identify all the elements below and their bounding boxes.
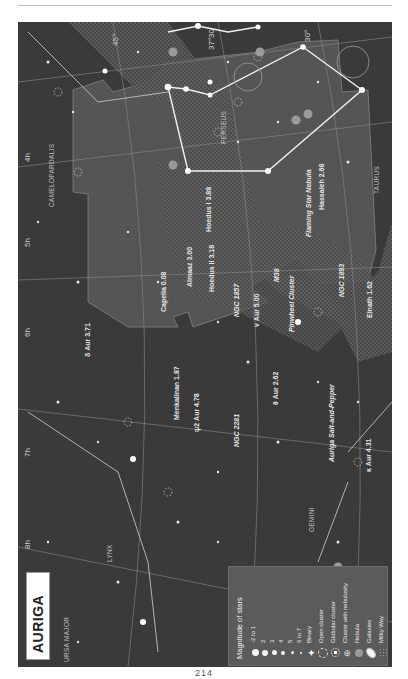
cluster-nebulosity-icon: ⊕ — [341, 647, 353, 659]
page-top-rule — [18, 5, 392, 6]
legend-item-galaxies: Galaxies — [365, 569, 377, 659]
dec-label-45: 45° — [111, 34, 120, 46]
legend-item-cluster-nebulosity: ⊕Cluster with nebulosity — [341, 569, 353, 659]
legend-item-globular-cluster: Globular cluster — [329, 569, 341, 659]
dso-label-ngc1893: NGC 1893 — [338, 264, 345, 297]
constellation-camelopardalis: CAMELOPARDALIS — [48, 144, 55, 207]
ra-label-8h: 8h — [23, 540, 32, 549]
star-label-delta-aur: δ Aur 3.71 — [84, 323, 91, 357]
legend-title: Magnitude of stars — [235, 597, 244, 659]
open-cluster-icon — [317, 647, 329, 659]
star-label-psi2-aur: ψ2 Aur 4.78 — [193, 393, 200, 432]
dso-label-m38: M38 — [273, 268, 280, 282]
constellation-gemini: GEMINI — [308, 507, 315, 532]
page-number: 214 — [0, 668, 408, 678]
galaxy-icon — [365, 647, 377, 659]
dec-label-30: 30° — [303, 30, 312, 42]
star-label-hoedus-i: Hoedus I 3.88 — [205, 187, 212, 232]
chart-title: AURIGA — [30, 595, 46, 653]
chart-title-badge: AURIGA — [26, 572, 50, 660]
binary-star-icon: ✦ — [305, 647, 317, 659]
star-label-kappa-aur: κ Aur 4.31 — [365, 439, 372, 472]
legend-item-milky-way: Milky Way — [377, 569, 389, 659]
dso-label-ngc1857: NGC 1857 — [233, 284, 240, 317]
dso-label-salt-and-pepper: Auriga Salt-and-Pepper — [328, 384, 335, 462]
star-label-almaaz: Almaaz 3.00 — [186, 247, 193, 287]
star-label-capella: Capella 0.08 — [160, 272, 167, 312]
legend-item-open-cluster: Open cluster — [317, 569, 329, 659]
constellation-taurus: TAURUS — [373, 166, 380, 194]
dso-label-pinwheel-cluster: Pinwheel Cluster — [288, 276, 295, 332]
ra-label-4h: 4h — [23, 153, 32, 162]
nebula-icon — [353, 647, 365, 659]
globular-cluster-icon — [329, 647, 341, 659]
ra-label-6h: 6h — [23, 328, 32, 337]
star-label-nu-aur: ν Aur 5.00 — [253, 294, 260, 327]
dec-label-37-30: 37°30' — [207, 27, 216, 50]
dso-label-ngc2281: NGC 2281 — [233, 414, 240, 447]
legend-item-binary: ✦Binary — [305, 569, 317, 659]
ra-label-5h: 5h — [23, 238, 32, 247]
constellation-lynx: LYNX — [106, 544, 113, 562]
star-label-elnath: Elnath 1.62 — [366, 281, 373, 318]
star-label-hoedus-ii: Hoedus II 3.18 — [208, 245, 215, 292]
legend: Magnitude of stars -2 to 1 2 3 4 5 6 to … — [228, 566, 388, 666]
star-label-theta-aur: θ Aur 2.62 — [272, 372, 279, 405]
dso-label-flaming-star-nebula: Flaming Star Nebula — [305, 169, 312, 237]
ra-label-7h: 7h — [23, 448, 32, 457]
star-chart: 4h 5h 6h 7h 8h 45° 37°30' 30° CAMELOPARD… — [18, 22, 392, 667]
star-label-hassaleh: Hassaleh 2.68 — [318, 164, 325, 210]
star-label-menkalinan: Menkalinan 1.87 — [173, 366, 180, 420]
constellation-ursa-major: URSA MAJOR — [63, 617, 70, 662]
legend-item-nebula: Nebula — [353, 569, 365, 659]
constellation-perseus: PERSEUS — [220, 111, 227, 144]
milky-way-icon — [377, 647, 389, 659]
